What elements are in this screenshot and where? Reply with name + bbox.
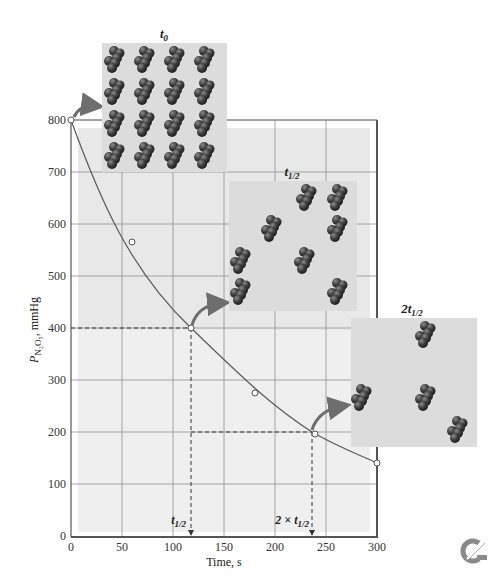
x-tick-labels: 0 50 100 150 200 250 300: [68, 540, 386, 554]
svg-text:0: 0: [60, 529, 66, 543]
svg-text:800: 800: [48, 113, 66, 127]
svg-text:250: 250: [317, 540, 335, 554]
svg-text:t0: t0: [160, 26, 169, 43]
svg-text:100: 100: [164, 540, 182, 554]
publisher-logo-icon: [463, 541, 487, 561]
svg-text:PN₂O₅, mmHg: PN₂O₅, mmHg: [27, 297, 43, 364]
svg-text:300: 300: [368, 540, 386, 554]
svg-text:200: 200: [48, 425, 66, 439]
svg-text:150: 150: [215, 540, 233, 554]
svg-text:0: 0: [68, 540, 74, 554]
arrow-to-t0-icon: [74, 106, 96, 117]
half-life-marker-icon: [188, 530, 194, 536]
svg-text:200: 200: [266, 540, 284, 554]
y-axis-label: PN₂O₅, mmHg: [27, 297, 43, 364]
svg-text:2t1/2: 2t1/2: [400, 301, 423, 318]
half-life-chart: 0 100 200 300 400 500 600 700 800 0 50 1…: [0, 0, 502, 581]
svg-text:100: 100: [48, 477, 66, 491]
svg-text:300: 300: [48, 373, 66, 387]
svg-text:500: 500: [48, 269, 66, 283]
panel-t-half: t1/2: [229, 164, 357, 311]
panel-2t-half: 2t1/2: [351, 301, 477, 447]
x-axis-label: Time, s: [206, 555, 242, 569]
panel-t0: t0: [102, 26, 227, 172]
svg-text:700: 700: [48, 165, 66, 179]
svg-text:600: 600: [48, 217, 66, 231]
y-tick-labels: 0 100 200 300 400 500 600 700 800: [48, 113, 66, 543]
double-half-life-marker-icon: [309, 530, 315, 536]
svg-text:50: 50: [116, 540, 128, 554]
svg-text:400: 400: [48, 321, 66, 335]
